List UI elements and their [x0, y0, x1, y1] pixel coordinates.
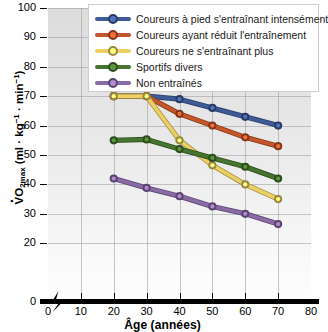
x-axis-tick-label: 10	[68, 306, 94, 317]
legend-swatch-icon	[95, 12, 131, 26]
legend-marker	[108, 14, 118, 24]
x-axis-tick	[147, 293, 148, 300]
data-point	[112, 138, 116, 142]
x-axis-tick-label: 80	[298, 306, 324, 317]
y-axis-tick-label: 100	[0, 2, 36, 13]
x-axis-tick-label: 0	[35, 306, 61, 317]
data-point	[177, 112, 181, 116]
series-4	[110, 174, 283, 228]
x-axis-tick	[180, 293, 181, 300]
x-axis-title: Âge (années)	[0, 318, 325, 332]
data-point	[276, 124, 280, 128]
x-axis-tick	[278, 293, 279, 300]
y-axis-tick	[40, 155, 47, 156]
data-point	[276, 144, 280, 148]
x-axis-tick-label: 50	[199, 306, 225, 317]
data-point	[112, 176, 116, 180]
data-point	[276, 222, 280, 226]
legend-swatch-icon	[95, 76, 131, 90]
x-axis-tick	[114, 293, 115, 300]
data-point	[177, 194, 181, 198]
legend-label: Sportifs divers	[136, 61, 203, 73]
data-point	[210, 106, 214, 110]
legend-item: Sportifs divers	[95, 59, 314, 75]
data-point	[243, 115, 247, 119]
legend-label: Coureurs ne s'entraînant plus	[136, 45, 273, 57]
data-point	[145, 186, 149, 190]
legend-marker	[108, 62, 118, 72]
y-axis-tick	[40, 67, 47, 68]
x-axis-tick-label: 40	[167, 306, 193, 317]
data-point	[276, 197, 280, 201]
legend-item: Non entraînés	[95, 75, 314, 91]
x-axis-tick-label: 20	[101, 306, 127, 317]
legend-label: Coureurs à pied s'entraînant intensément	[136, 13, 328, 25]
y-axis-tick	[40, 214, 47, 215]
y-axis-tick-label: 0	[0, 296, 36, 307]
legend-swatch-icon	[95, 28, 131, 42]
data-point	[243, 135, 247, 139]
legend-item: Coureurs ayant réduit l'entraînement	[95, 27, 314, 43]
series-line	[114, 139, 278, 178]
y-axis-tick	[40, 37, 47, 38]
x-axis-tick-label: 30	[134, 306, 160, 317]
legend-label: Non entraînés	[136, 77, 202, 89]
data-point	[210, 204, 214, 208]
data-point	[243, 165, 247, 169]
y-title-sub: 2max	[18, 167, 27, 187]
x-axis-tick-label: 60	[232, 306, 258, 317]
data-point	[243, 182, 247, 186]
data-point	[210, 163, 214, 167]
y-axis-tick	[40, 96, 47, 97]
legend-item: Coureurs ne s'entraînant plus	[95, 43, 314, 59]
legend: Coureurs à pied s'entraînant intensément…	[88, 4, 319, 92]
data-point	[145, 94, 149, 98]
y-axis-title: VO2max (ml · kg−1 · min−1)	[12, 23, 27, 253]
legend-marker	[108, 30, 118, 40]
y-title-units: (ml · kg−1 · min−1)	[13, 71, 25, 168]
data-point	[145, 137, 149, 141]
y-axis-tick	[40, 126, 47, 127]
legend-item: Coureurs à pied s'entraînant intensément	[95, 11, 314, 27]
y-axis-tick	[40, 243, 47, 244]
legend-marker	[108, 46, 118, 56]
data-point	[177, 97, 181, 101]
y-title-vdot: V	[13, 197, 25, 205]
data-point	[210, 156, 214, 160]
x-axis-tick	[81, 293, 82, 300]
data-point	[177, 147, 181, 151]
legend-marker	[108, 78, 118, 88]
series-line-outline	[114, 139, 278, 178]
x-axis-tick	[245, 293, 246, 300]
legend-swatch-icon	[95, 44, 131, 58]
x-axis-tick	[212, 293, 213, 300]
data-point	[243, 212, 247, 216]
data-point	[210, 124, 214, 128]
data-point	[177, 138, 181, 142]
data-point	[276, 176, 280, 180]
data-point	[112, 94, 116, 98]
legend-label: Coureurs ayant réduit l'entraînement	[136, 29, 306, 41]
legend-swatch-icon	[95, 60, 131, 74]
y-title-o: O	[13, 188, 25, 197]
y-axis-tick	[40, 184, 47, 185]
y-axis-tick	[40, 8, 47, 9]
x-axis-tick-label: 70	[265, 306, 291, 317]
